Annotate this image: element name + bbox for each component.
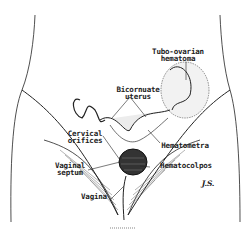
label-hematometra: Hematometra [150, 142, 220, 149]
label-vaginal-septum: Vaginal septum [48, 162, 92, 176]
artist-signature: J.S. [196, 180, 220, 187]
label-bicornuate-uterus: Bicornuate uterus [108, 86, 168, 100]
anatomical-diagram: Tubo-ovarian hematoma Bicornuate uterus … [0, 0, 247, 241]
label-line: orifices [60, 137, 110, 144]
label-line: uterus [108, 93, 168, 100]
label-line: Hematometra [150, 142, 220, 149]
label-hematocolpos: Hematocolpos [150, 162, 222, 169]
label-line: septum [48, 169, 92, 176]
label-line: Vagina [76, 193, 112, 200]
label-tubo-ovarian-hematoma: Tubo-ovarian hematoma [140, 48, 216, 62]
illustration-drawing [0, 0, 247, 241]
label-line: hematoma [140, 55, 216, 62]
label-vagina: Vagina [76, 193, 112, 200]
label-cervical-orifices: Cervical orifices [60, 130, 110, 144]
label-line: Hematocolpos [150, 162, 222, 169]
